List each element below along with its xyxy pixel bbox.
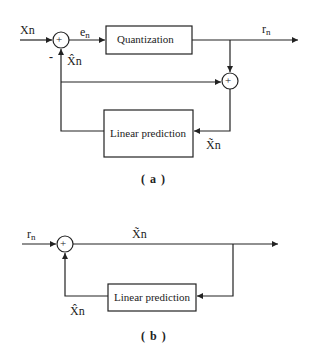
prediction-to-adder-b [65, 253, 108, 296]
adder1-sign: + [56, 34, 62, 45]
input-label-a: Xn [20, 24, 35, 36]
predictor-label-b: Linear prediction [114, 292, 190, 303]
prediction-label-a: X̂n [67, 55, 82, 67]
reconstructed-feedback [194, 89, 230, 131]
minus-sign: - [49, 51, 53, 63]
input-label-b: rn [27, 228, 36, 242]
predictor-label-a: Linear prediction [110, 128, 186, 139]
output-label-b: X̃n [132, 228, 147, 240]
error-label: en [80, 26, 90, 40]
caption-b: ( b ) [141, 330, 167, 342]
adder-b-sign: + [60, 238, 66, 249]
quantization-label: Quantization [117, 34, 174, 45]
adder2-sign: + [225, 75, 231, 86]
caption-a: ( a ) [141, 173, 166, 185]
feedback-b [197, 244, 233, 296]
prediction-label-b: X̂n [70, 305, 85, 317]
reconstructed-label-a: X̃n [206, 139, 221, 151]
output-label-a: rn [262, 23, 271, 37]
